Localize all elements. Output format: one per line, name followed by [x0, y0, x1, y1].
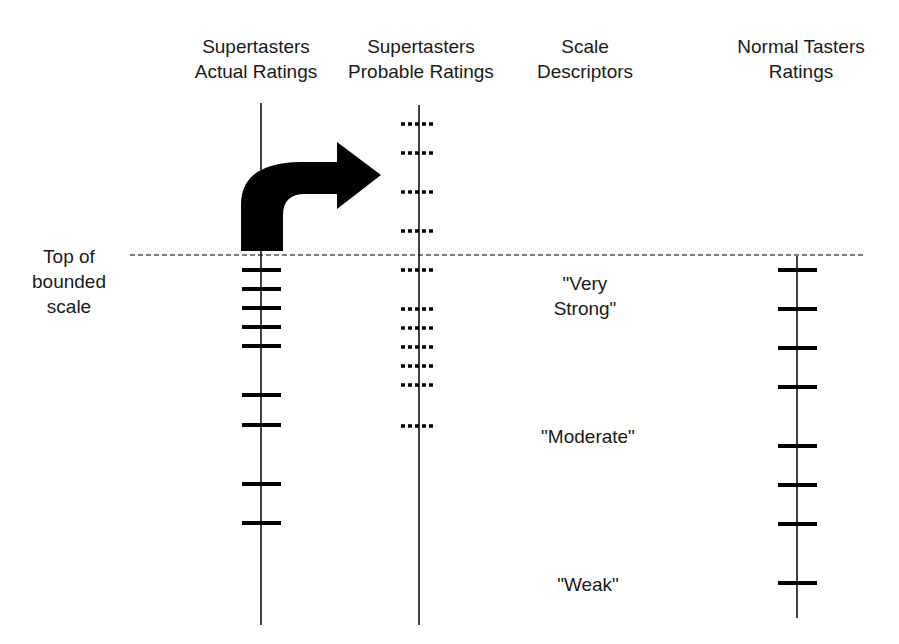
header-line: Supertasters: [336, 34, 506, 59]
axis-normal-tasters: [778, 256, 817, 618]
header-line: Scale: [525, 34, 645, 59]
header-line: Ratings: [726, 59, 876, 84]
header-line: Probable Ratings: [336, 59, 506, 84]
diagram-canvas: [0, 0, 899, 644]
header-line: Supertasters: [186, 34, 326, 59]
descriptor-very-strong: "Very Strong": [540, 271, 630, 321]
header-line: Actual Ratings: [186, 59, 326, 84]
label-line: Top of: [22, 244, 116, 269]
label-line: scale: [22, 294, 116, 319]
header-line: Descriptors: [525, 59, 645, 84]
descriptor-line: "Very: [540, 271, 630, 296]
descriptor-moderate: "Moderate": [528, 424, 648, 449]
label-line: bounded: [22, 269, 116, 294]
curved-arrow-icon: [241, 142, 381, 251]
header-actual-ratings: Supertasters Actual Ratings: [186, 34, 326, 84]
header-scale-descriptors: Scale Descriptors: [525, 34, 645, 84]
actual-ticks: [242, 270, 281, 523]
axis-probable-ratings: [401, 105, 436, 625]
header-probable-ratings: Supertasters Probable Ratings: [336, 34, 506, 84]
top-of-bounded-scale-label: Top of bounded scale: [22, 244, 116, 319]
header-normal-tasters: Normal Tasters Ratings: [726, 34, 876, 84]
descriptor-weak: "Weak": [548, 572, 628, 597]
header-line: Normal Tasters: [726, 34, 876, 59]
descriptor-line: Strong": [540, 296, 630, 321]
